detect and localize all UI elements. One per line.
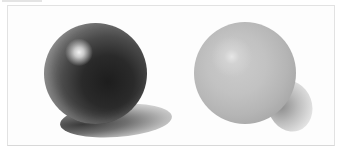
cropped-caption-remnant (2, 0, 42, 2)
light-matte-sphere (194, 22, 296, 124)
dark-glossy-sphere (44, 23, 147, 124)
